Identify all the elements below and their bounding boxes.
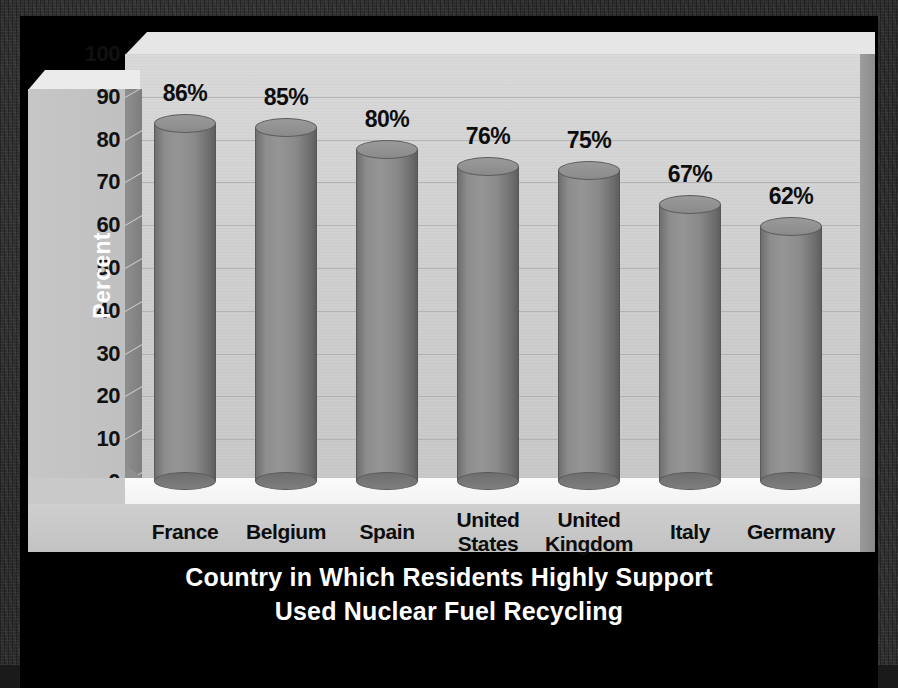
x-category-label: France (132, 520, 238, 544)
bar-base-ellipse (457, 472, 519, 490)
axis-tick-mark (125, 129, 142, 141)
bar-top-ellipse (356, 140, 418, 159)
bar-cylinder[interactable]: 75% (558, 161, 620, 490)
bar-body (154, 123, 216, 481)
bar-body (760, 226, 822, 481)
y-axis-title: Percent (89, 196, 116, 356)
bar-base-ellipse (255, 472, 317, 490)
x-category-label-line: Kingdom (536, 532, 642, 556)
bar-chart-3d: 1009080706050403020100 86%85%80%76%75%67… (28, 24, 868, 544)
axis-tick-mark (125, 385, 142, 397)
bar-cylinder[interactable]: 86% (154, 114, 216, 490)
x-category-label: Belgium (233, 520, 339, 544)
axis-tick-mark (125, 257, 142, 269)
bar-base-ellipse (356, 472, 418, 490)
x-category-label-line: France (132, 520, 238, 544)
bar-top-ellipse (760, 217, 822, 236)
bar-body (659, 204, 721, 481)
y-tick-label: 100 (60, 41, 120, 67)
y-tick-label: 90 (60, 84, 120, 110)
axis-tick-mark (125, 171, 142, 183)
y-tick-label: 70 (60, 169, 120, 195)
x-category-label: Italy (637, 520, 743, 544)
bar-cylinder[interactable]: 76% (457, 157, 519, 490)
x-category-label: Spain (334, 520, 440, 544)
y-tick-label: 80 (60, 127, 120, 153)
chart-title: Country in Which Residents Highly Suppor… (20, 560, 878, 628)
axis-tick-mark (125, 343, 142, 355)
x-category-label-line: Italy (637, 520, 743, 544)
back-wall-right-edge (860, 54, 875, 478)
bar-base-ellipse (558, 472, 620, 490)
bar-base-ellipse (760, 472, 822, 490)
back-wall-top-bevel (125, 32, 875, 55)
bar-value-label: 85% (264, 84, 309, 111)
chart-title-line-2: Used Nuclear Fuel Recycling (20, 594, 878, 628)
x-category-label-line: United (435, 508, 541, 532)
x-category-label: UnitedKingdom (536, 508, 642, 556)
bar-cylinder[interactable]: 80% (356, 140, 418, 490)
bar-base-ellipse (659, 472, 721, 490)
floor-right-edge (860, 478, 875, 552)
bar-cylinder[interactable]: 85% (255, 118, 317, 490)
x-category-label-line: United (536, 508, 642, 532)
x-category-label: UnitedStates (435, 508, 541, 556)
bar-value-label: 75% (567, 127, 612, 154)
bar-body (255, 127, 317, 481)
axis-column-side-ticks (125, 89, 142, 478)
bar-body (457, 166, 519, 481)
bar-cylinder[interactable]: 62% (760, 217, 822, 490)
y-tick-label: 10 (60, 426, 120, 452)
bar-value-label: 76% (466, 123, 511, 150)
x-category-label: Germany (738, 520, 844, 544)
x-category-label-line: Belgium (233, 520, 339, 544)
axis-tick-mark (125, 89, 142, 98)
bar-body (356, 149, 418, 481)
chart-title-line-1: Country in Which Residents Highly Suppor… (20, 560, 878, 594)
axis-tick-mark (125, 300, 142, 312)
bar-value-label: 67% (668, 161, 713, 188)
bar-cylinder[interactable]: 67% (659, 195, 721, 490)
x-category-label-line: Germany (738, 520, 844, 544)
x-category-label-line: States (435, 532, 541, 556)
bar-value-label: 80% (365, 106, 410, 133)
bar-top-ellipse (558, 161, 620, 180)
bar-value-label: 62% (769, 183, 814, 210)
x-category-label-line: Spain (334, 520, 440, 544)
axis-tick-mark (125, 428, 142, 440)
bar-base-ellipse (154, 472, 216, 490)
bar-top-ellipse (154, 114, 216, 133)
bar-value-label: 86% (163, 80, 208, 107)
bar-top-ellipse (457, 157, 519, 176)
y-tick-label: 20 (60, 383, 120, 409)
bar-body (558, 170, 620, 481)
axis-tick-mark (125, 214, 142, 226)
